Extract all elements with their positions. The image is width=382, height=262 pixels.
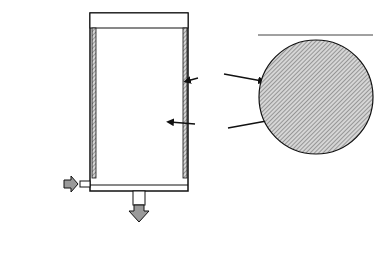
reactor-diagram [0, 0, 382, 262]
product-outlet [129, 191, 149, 222]
cooling-tubes-pointer-right [224, 74, 262, 81]
feed-inlet [64, 176, 90, 192]
feed-arrow-icon [64, 176, 78, 192]
reactor-vessel [90, 13, 188, 191]
product-arrow-icon [129, 205, 149, 222]
cross-section-view [259, 40, 373, 154]
